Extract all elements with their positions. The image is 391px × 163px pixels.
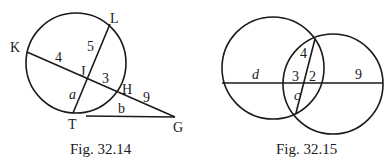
point-l-label: L [110,11,119,26]
segment-2-label: 2 [309,69,316,84]
point-k-label: K [10,40,20,55]
figure-32-15: d 3 2 9 4 c Fig. 32.15 [222,17,383,157]
segment-hg-label: 9 [143,90,150,105]
segment-d-label: d [252,67,260,82]
secant-kg [27,52,175,117]
figure-caption: Fig. 32.14 [70,141,132,157]
segment-c-label: c [294,88,301,103]
chord-lt [73,24,110,113]
right-circle [283,34,383,134]
segment-4-label: 4 [300,46,307,61]
left-circle [222,17,324,119]
point-g-label: G [173,120,183,135]
segment-3-label: 3 [292,69,299,84]
tangent-tg [86,116,175,117]
circle [26,13,126,113]
figure-32-14: K L J H T G 4 5 3 a 9 b Fig. 32.14 [10,11,183,157]
segment-lj-label: 5 [87,39,94,54]
point-h-label: H [122,82,132,97]
diagram-canvas: K L J H T G 4 5 3 a 9 b Fig. 32.14 d 3 2… [0,0,391,163]
segment-kj-label: 4 [55,50,62,65]
segment-jh-label: 3 [102,71,109,86]
point-t-label: T [68,117,77,132]
segment-9-label: 9 [355,67,362,82]
segment-tg-label: b [118,101,125,116]
segment-jt-label: a [69,87,76,102]
figure-caption: Fig. 32.15 [276,141,337,157]
point-j-label: J [80,64,86,79]
